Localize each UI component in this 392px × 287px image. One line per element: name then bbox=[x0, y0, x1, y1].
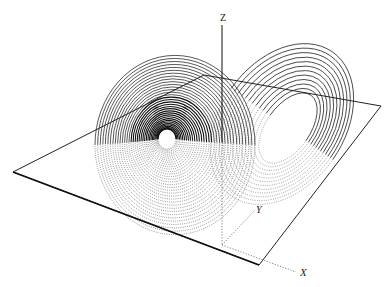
trajectory-loop-lower bbox=[115, 144, 231, 209]
trajectory-loop-lower bbox=[118, 143, 228, 205]
y-axis bbox=[222, 210, 255, 245]
z-axis-label: Z bbox=[220, 13, 226, 23]
left-wing-center-hole bbox=[160, 132, 174, 146]
x-axis-label: X bbox=[300, 267, 307, 278]
lorenz-attractor-figure bbox=[0, 0, 392, 287]
x-axis bbox=[222, 245, 296, 272]
left-wing-trajectory bbox=[95, 55, 255, 234]
y-axis-label: Y bbox=[256, 205, 262, 215]
trajectory-loop-lower bbox=[122, 143, 222, 199]
trajectory-loop-upper bbox=[113, 76, 234, 144]
trajectory-loop-lower bbox=[135, 142, 206, 182]
trajectory-loop-lower bbox=[95, 145, 255, 235]
